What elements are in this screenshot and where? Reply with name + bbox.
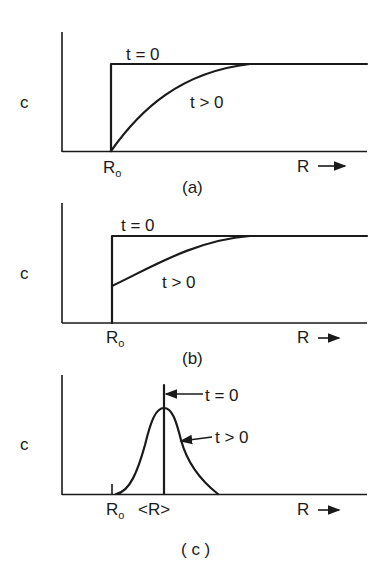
panel-a: c t = 0 t > 0 Ro R (a): [20, 32, 367, 197]
tpos-pointer-arrow-icon: [181, 437, 212, 441]
label-t-greater-0: t > 0: [215, 428, 249, 447]
diffused-distribution: [116, 408, 218, 494]
diffused-profile: [111, 64, 250, 151]
panel-caption: (a): [182, 178, 203, 197]
mean-r-label: <R>: [138, 500, 170, 519]
panel-caption: (b): [182, 349, 203, 368]
y-axis-label: c: [20, 435, 29, 454]
x-axis-label: R: [297, 328, 309, 347]
label-t-equals-0: t = 0: [205, 386, 239, 405]
label-t-greater-0: t > 0: [190, 93, 224, 112]
panel-c: c t = 0 t > 0 Ro <R> R ( c ): [20, 375, 367, 559]
panel-b: c t = 0 t > 0 Ro R (b): [20, 203, 367, 368]
panel-caption: ( c ): [181, 540, 210, 559]
r0-label: Ro: [103, 158, 121, 179]
initial-step-profile: [112, 236, 367, 323]
x-axis-label: R: [297, 500, 309, 519]
label-t-equals-0: t = 0: [121, 216, 155, 235]
diffusion-profiles-figure: c t = 0 t > 0 Ro R (a) c t = 0 t > 0 Ro …: [0, 0, 385, 576]
r0-label: Ro: [106, 328, 124, 349]
label-t-greater-0: t > 0: [162, 273, 196, 292]
x-axis-label: R: [297, 157, 309, 176]
y-axis-label: c: [20, 264, 29, 283]
r0-label: Ro: [106, 500, 124, 521]
y-axis-label: c: [20, 93, 29, 112]
label-t-equals-0: t = 0: [126, 45, 160, 64]
